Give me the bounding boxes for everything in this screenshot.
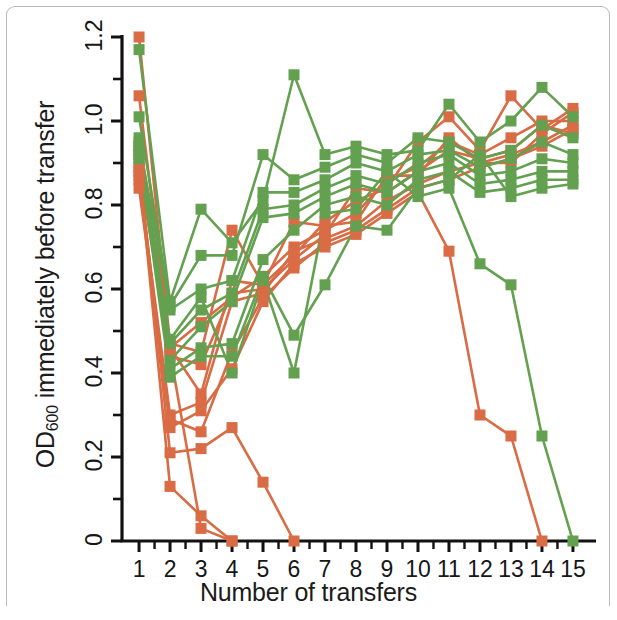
series-marker-green-5	[227, 296, 238, 307]
series-marker-green-7	[536, 183, 547, 194]
y-tick-label: 1.0	[81, 92, 108, 148]
series-marker-orange-5	[289, 246, 300, 257]
y-tick-label: 0	[81, 512, 108, 568]
series-marker-green-8	[196, 292, 207, 303]
series-marker-green-1	[443, 99, 454, 110]
series-marker-green-1	[289, 69, 300, 80]
series-marker-green-8	[320, 208, 331, 219]
series-marker-green-5	[289, 208, 300, 219]
series-marker-orange-8	[227, 422, 238, 433]
series-marker-orange-2	[134, 90, 145, 101]
series-marker-orange-1	[227, 225, 238, 236]
y-tick-label: 0.4	[81, 344, 108, 400]
series-marker-orange-1	[505, 90, 516, 101]
series-marker-green-8	[289, 368, 300, 379]
series-marker-green-6	[258, 254, 269, 265]
series-marker-green-8	[258, 275, 269, 286]
series-marker-green-8	[381, 166, 392, 177]
series-marker-green-3	[227, 275, 238, 286]
series-marker-orange-7	[505, 431, 516, 442]
series-marker-orange-4	[320, 221, 331, 232]
series-marker-green-2	[412, 132, 423, 143]
series-marker-orange-9	[196, 510, 207, 521]
series-marker-green-1	[227, 237, 238, 248]
series-marker-orange-7	[258, 296, 269, 307]
series-marker-green-2	[227, 250, 238, 261]
series-marker-green-3	[258, 187, 269, 198]
series-marker-green-8	[412, 191, 423, 202]
series-marker-orange-7	[536, 536, 547, 547]
series-marker-orange-8	[196, 443, 207, 454]
series-marker-green-6	[381, 200, 392, 211]
series-marker-orange-8	[165, 447, 176, 458]
series-marker-green-2	[134, 111, 145, 122]
series-marker-orange-7	[320, 242, 331, 253]
series-marker-green-1	[536, 82, 547, 93]
series-marker-orange-2	[505, 132, 516, 143]
series-marker-orange-7	[165, 422, 176, 433]
series-marker-green-6	[227, 338, 238, 349]
series-marker-green-8	[443, 183, 454, 194]
series-marker-green-5	[196, 321, 207, 332]
series-marker-green-5	[258, 212, 269, 223]
series-marker-green-1	[196, 204, 207, 215]
series-marker-green-7	[227, 351, 238, 362]
series-marker-orange-6	[134, 183, 145, 194]
series-marker-green-1	[474, 137, 485, 148]
series-marker-orange-1	[134, 32, 145, 43]
series-marker-green-8	[505, 279, 516, 290]
x-axis-title: Number of transfers	[0, 578, 617, 607]
series-marker-orange-7	[196, 405, 207, 416]
series-marker-green-2	[289, 174, 300, 185]
y-tick-label: 0.6	[81, 260, 108, 316]
series-marker-green-3	[165, 305, 176, 316]
series-marker-green-8	[165, 334, 176, 345]
series-marker-green-1	[134, 44, 145, 55]
series-marker-green-4	[196, 305, 207, 316]
series-marker-orange-7	[474, 410, 485, 421]
series-marker-orange-10	[227, 536, 238, 547]
series-markers-group	[134, 32, 579, 547]
series-marker-orange-8	[289, 536, 300, 547]
series-marker-green-7	[320, 279, 331, 290]
series-marker-green-3	[505, 153, 516, 164]
y-tick-label: 0.8	[81, 176, 108, 232]
series-marker-green-7	[505, 191, 516, 202]
series-marker-green-8	[351, 204, 362, 215]
series-marker-green-8	[227, 368, 238, 379]
series-marker-green-2	[567, 132, 578, 143]
series-marker-green-7	[381, 225, 392, 236]
y-tick-label: 1.2	[81, 8, 108, 64]
series-marker-orange-1	[443, 111, 454, 122]
series-marker-green-6	[289, 225, 300, 236]
series-marker-orange-7	[443, 246, 454, 257]
y-axis-title-subscript: 600	[44, 405, 61, 431]
y-axis-title: OD600 immediately before transfer	[31, 35, 60, 535]
series-marker-green-6	[351, 191, 362, 202]
series-marker-orange-9	[165, 481, 176, 492]
series-marker-green-3	[289, 187, 300, 198]
series-marker-green-1	[505, 116, 516, 127]
series-marker-green-3	[351, 158, 362, 169]
series-marker-green-7	[351, 221, 362, 232]
y-axis-title-od: OD	[31, 431, 59, 468]
series-marker-green-8	[567, 536, 578, 547]
series-marker-orange-7	[289, 258, 300, 269]
series-marker-green-7	[474, 149, 485, 160]
series-marker-green-2	[320, 162, 331, 173]
series-marker-green-4	[536, 153, 547, 164]
series-marker-green-3	[536, 137, 547, 148]
series-marker-green-5	[381, 187, 392, 198]
series-marker-green-7	[567, 179, 578, 190]
series-marker-green-8	[474, 258, 485, 269]
y-axis-title-rest: immediately before transfer	[31, 101, 59, 405]
series-marker-green-6	[474, 187, 485, 198]
series-marker-green-1	[320, 149, 331, 160]
series-marker-green-2	[196, 250, 207, 261]
series-marker-green-8	[536, 431, 547, 442]
series-marker-orange-6	[196, 426, 207, 437]
series-marker-green-1	[567, 111, 578, 122]
series-marker-green-8	[134, 153, 145, 164]
series-marker-orange-8	[258, 477, 269, 488]
series-marker-green-7	[196, 351, 207, 362]
